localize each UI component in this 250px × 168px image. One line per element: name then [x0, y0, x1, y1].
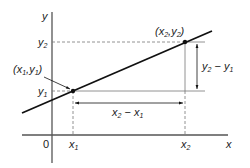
y2-label: y2 — [37, 36, 48, 49]
y-axis-label: y — [41, 10, 49, 22]
point-2-dot — [183, 40, 187, 44]
point-2-label: (x2,y2) — [155, 25, 185, 38]
run-label: x2 − x1 — [111, 106, 143, 119]
point-1-leader-arrow — [44, 77, 70, 89]
x1-label: x1 — [68, 138, 79, 151]
rise-label: y2 − y1 — [201, 60, 233, 73]
slope-diagram: y x 0 y2 y1 x1 x2 (x1,y1) (x2,y2) y2 − y… — [0, 0, 250, 168]
y1-label: y1 — [37, 85, 48, 98]
point-1-dot — [71, 89, 75, 93]
point-1-label: (x1,y1) — [13, 63, 43, 76]
origin-label: 0 — [43, 138, 49, 150]
x2-label: x2 — [180, 138, 191, 151]
x-axis-label: x — [225, 138, 232, 150]
